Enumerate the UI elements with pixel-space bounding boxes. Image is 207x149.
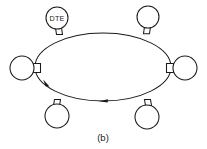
node-circle-left[interactable]: [10, 56, 34, 80]
node-circle-bottom-left[interactable]: [45, 104, 69, 128]
ring-ellipse-path: [35, 33, 171, 101]
ring-flow-arrows: [43, 80, 108, 103]
node-top-right[interactable]: [137, 6, 159, 34]
flow-arrow-left-icon: [43, 80, 49, 87]
node-label-dte: DTE: [50, 14, 65, 23]
tap-stub-left: [34, 64, 41, 73]
ring-diagram: DTE (b): [0, 0, 207, 149]
node-top-left[interactable]: DTE: [46, 7, 68, 35]
node-bottom-left[interactable]: [45, 100, 69, 129]
node-circle-top-right[interactable]: [137, 6, 159, 28]
figure-caption: (b): [97, 132, 109, 143]
node-circle-bottom-right[interactable]: [135, 105, 159, 129]
node-bottom-right[interactable]: [135, 100, 159, 130]
ring-topology-figure: DTE (b): [0, 0, 207, 149]
ring-loop: [35, 33, 171, 101]
tap-stub-right: [167, 64, 174, 73]
node-right[interactable]: [167, 56, 198, 80]
node-circle-right[interactable]: [173, 56, 197, 80]
